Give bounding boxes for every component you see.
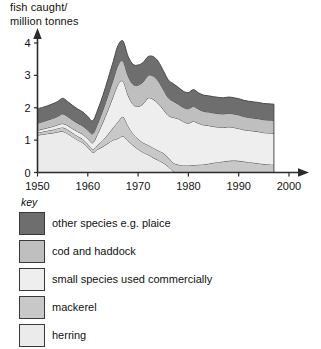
y-tick-label: 4 bbox=[24, 37, 30, 49]
legend-swatch bbox=[19, 296, 45, 319]
y-axis-arrowhead bbox=[33, 28, 41, 39]
chart-area: fish caught/ million tonnes 01234 195019… bbox=[0, 0, 321, 196]
legend-label: small species used commercially bbox=[52, 273, 212, 286]
y-tick-labels: 01234 bbox=[24, 37, 30, 179]
y-tick-label: 1 bbox=[24, 134, 30, 146]
legend-label: mackerel bbox=[52, 301, 97, 314]
legend-item-other-species-e-g-plaice[interactable]: other species e.g. plaice bbox=[19, 210, 171, 237]
legend-label: cod and haddock bbox=[52, 245, 136, 258]
x-tick-label: 1980 bbox=[176, 180, 200, 192]
legend-swatch bbox=[19, 212, 45, 235]
legend-label: other species e.g. plaice bbox=[52, 217, 171, 230]
legend-item-herring[interactable]: herring bbox=[19, 322, 86, 349]
legend-label: herring bbox=[52, 329, 86, 342]
legend-item-cod-and-haddock[interactable]: cod and haddock bbox=[19, 238, 136, 265]
legend-swatch bbox=[19, 240, 45, 263]
x-tick-labels: 195019601970198019902000 bbox=[25, 180, 301, 192]
legend-title: key bbox=[21, 196, 37, 208]
legend-item-mackerel[interactable]: mackerel bbox=[19, 294, 97, 321]
stacked-area-plot: 01234 195019601970198019902000 bbox=[0, 0, 321, 196]
x-axis-arrowhead bbox=[298, 168, 309, 176]
x-tick-label: 1950 bbox=[25, 180, 49, 192]
x-tick-label: 1960 bbox=[76, 180, 100, 192]
legend-swatch bbox=[19, 324, 45, 347]
legend-item-small-species-used-commercially[interactable]: small species used commercially bbox=[19, 266, 212, 293]
legend: key other species e.g. plaicecod and had… bbox=[0, 196, 321, 344]
y-tick-label: 0 bbox=[24, 167, 30, 179]
x-tick-label: 1970 bbox=[126, 180, 150, 192]
area-bands bbox=[38, 41, 274, 173]
legend-swatch bbox=[19, 268, 45, 291]
x-tick-label: 2000 bbox=[277, 180, 301, 192]
x-tick-label: 1990 bbox=[226, 180, 250, 192]
y-tick-label: 2 bbox=[24, 102, 30, 114]
y-tick-label: 3 bbox=[24, 69, 30, 81]
